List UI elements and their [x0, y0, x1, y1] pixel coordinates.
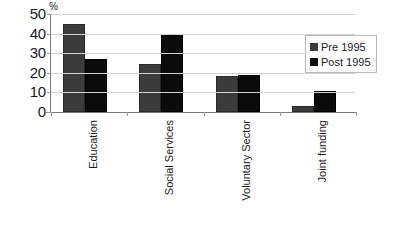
bar-group [139, 14, 183, 112]
category-label-text: Voluntary Sector [241, 120, 252, 201]
y-axis-tick-label: 20 [16, 65, 46, 80]
bar-pre-1995 [139, 64, 161, 112]
legend-label: Pre 1995 [321, 41, 366, 53]
legend-swatch-icon [310, 58, 318, 66]
x-axis-category-label: Voluntary Sector [241, 120, 252, 201]
y-axis-tickmark [47, 112, 51, 113]
x-axis-tickmark [356, 112, 357, 116]
category-label-text: Education [88, 120, 99, 169]
bar-post-1995 [85, 59, 107, 112]
bar-chart: % 50403020100 EducationSocial ServicesVo… [0, 0, 404, 228]
y-axis-unit-label: % [49, 2, 58, 12]
y-axis-tick-label: 10 [16, 84, 46, 99]
category-label-text: Joint funding [317, 120, 328, 182]
x-axis-category-label: Joint funding [317, 120, 328, 182]
y-axis-tickmark [47, 34, 51, 35]
chart-legend: Pre 1995Post 1995 [305, 35, 377, 73]
y-axis-tickmark [47, 53, 51, 54]
x-axis-line [45, 112, 356, 113]
y-axis-tick-label: 50 [16, 6, 46, 21]
x-axis-category-labels: EducationSocial ServicesVoluntary Sector… [50, 116, 355, 224]
y-axis-tickmark [47, 14, 51, 15]
y-axis-tick-label: 30 [16, 45, 46, 60]
legend-swatch-icon [310, 43, 318, 51]
bar-pre-1995 [63, 24, 85, 112]
category-label-text: Social Services [164, 120, 175, 195]
bar-post-1995 [314, 91, 336, 112]
y-axis-labels: 50403020100 [16, 10, 46, 112]
bar-group [216, 14, 260, 112]
x-axis-category-label: Social Services [164, 120, 175, 195]
legend-item[interactable]: Pre 1995 [310, 39, 371, 54]
y-axis-tickmark [47, 92, 51, 93]
bar-pre-1995 [292, 106, 314, 112]
gridline [51, 14, 355, 15]
y-axis-tickmark [47, 73, 51, 74]
bar-pre-1995 [216, 76, 238, 112]
y-axis-tick-label: 0 [16, 104, 46, 119]
legend-label: Post 1995 [321, 56, 371, 68]
gridline [51, 92, 355, 93]
legend-item[interactable]: Post 1995 [310, 54, 371, 69]
x-axis-category-label: Education [88, 120, 99, 169]
y-axis-tick-label: 40 [16, 26, 46, 41]
bar-group [63, 14, 107, 112]
